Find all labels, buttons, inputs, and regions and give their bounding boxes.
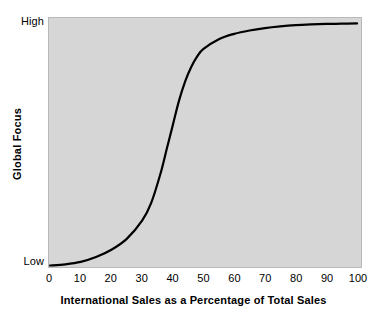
x-axis-tick-label: 40 (166, 272, 178, 284)
x-axis-tick-label: 30 (135, 272, 147, 284)
x-axis-tick-row: 0102030405060708090100 (0, 272, 387, 286)
x-axis-tick-label: 0 (46, 272, 52, 284)
x-axis-title: International Sales as a Percentage of T… (0, 294, 387, 306)
y-axis-title: Global Focus (8, 86, 26, 202)
x-axis-tick-label: 80 (290, 272, 302, 284)
y-axis-tick-high: High (21, 15, 44, 27)
y-axis-title-text: Global Focus (11, 108, 23, 180)
x-axis-tick-label: 100 (349, 272, 368, 284)
x-axis-tick-label: 70 (259, 272, 271, 284)
x-axis-tick-label: 20 (105, 272, 117, 284)
chart-figure: High Low Global Focus 010203040506070809… (0, 0, 387, 321)
y-axis-tick-low: Low (24, 255, 44, 267)
x-axis-tick-label: 60 (228, 272, 240, 284)
x-axis-tick-label: 90 (321, 272, 333, 284)
plot-area (48, 17, 362, 268)
x-axis-tick-label: 50 (197, 272, 209, 284)
x-axis-tick-label: 10 (74, 272, 86, 284)
plot-canvas (49, 18, 361, 267)
sigmoid-curve (50, 23, 357, 265)
